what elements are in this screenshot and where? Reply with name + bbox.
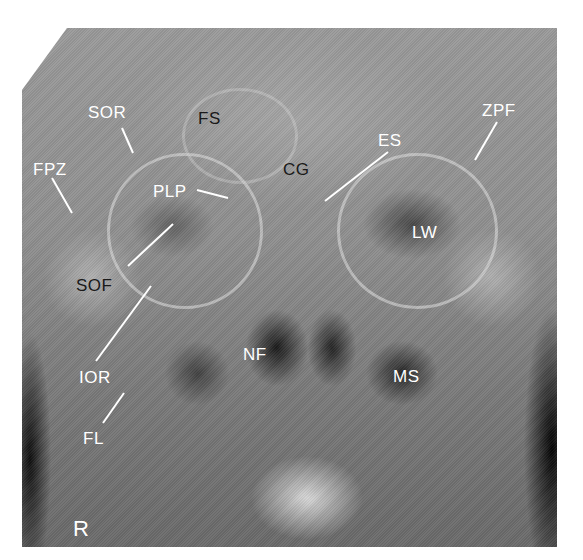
label-ior: IOR [79,369,111,386]
label-fs: FS [198,110,221,127]
right-orbit-outline [107,153,263,309]
label-fl: FL [83,430,104,447]
label-ms: MS [393,368,420,385]
label-sor: SOR [88,104,126,121]
frontal-sinus-outline [182,88,298,184]
label-lw: LW [412,224,437,241]
label-nf: NF [243,346,267,363]
label-zpf: ZPF [482,102,516,119]
side-marker-r: R [73,518,89,540]
label-plp: PLP [153,183,187,200]
label-es: ES [378,132,402,149]
label-sof: SOF [76,277,112,294]
label-fpz: FPZ [33,161,67,178]
label-cg: CG [283,161,310,178]
